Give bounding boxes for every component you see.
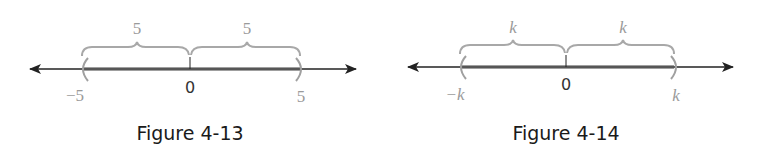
figure-caption: Figure 4-13 (136, 122, 243, 144)
figure-caption: Figure 4-14 (512, 122, 619, 144)
figure-4-14: k k −k 0 k Figure 4-14 (408, 18, 733, 144)
right-endpoint-label: k (672, 86, 680, 105)
right-brace-label: k (619, 18, 627, 37)
left-brace-icon (82, 42, 189, 56)
right-brace-label: 5 (243, 19, 252, 38)
left-endpoint-label: −5 (66, 86, 84, 105)
left-brace-icon (460, 40, 565, 54)
left-brace-label: k (509, 18, 517, 37)
right-brace-icon (567, 40, 674, 54)
zero-label: 0 (185, 78, 195, 97)
figure-4-13: 5 5 −5 0 5 Figure 4-13 (30, 19, 356, 144)
right-brace-icon (191, 42, 300, 56)
left-endpoint-label: −k (445, 85, 464, 104)
right-endpoint-label: 5 (297, 87, 306, 106)
zero-label: 0 (561, 75, 571, 94)
figures-canvas: 5 5 −5 0 5 Figure 4-13 k k −k 0 k Figure… (0, 0, 758, 145)
left-brace-label: 5 (133, 19, 142, 38)
